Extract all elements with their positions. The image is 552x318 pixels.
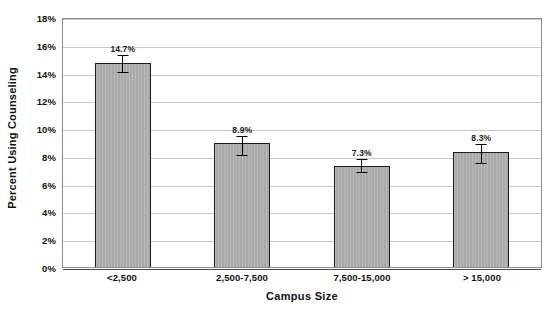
error-bar-cap-lower	[117, 72, 128, 73]
bar-texture	[96, 64, 150, 267]
bar-slot: 14.7%	[63, 19, 183, 267]
error-bar-stem	[481, 144, 482, 164]
error-bar-cap-upper	[476, 144, 487, 145]
bar[interactable]	[334, 166, 390, 267]
error-bar	[356, 159, 367, 174]
bar-texture	[335, 167, 389, 267]
y-axis-title: Percent Using Counseling	[0, 0, 24, 276]
bar-slot: 7.3%	[302, 19, 422, 267]
bar-series: 14.7%8.9%7.3%8.3%	[63, 19, 541, 267]
x-axis-tick-label: <2,500	[62, 272, 182, 290]
axis-baseline	[63, 269, 541, 270]
plot-area: 14.7%8.9%7.3%8.3%	[62, 18, 542, 268]
bar[interactable]	[214, 143, 270, 267]
error-bar-stem	[122, 55, 123, 73]
error-bar	[117, 55, 128, 73]
y-axis-tick-label: 8%	[42, 151, 56, 162]
bar-texture	[454, 153, 508, 267]
error-bar	[476, 144, 487, 164]
y-axis-tick-label: 0%	[42, 263, 56, 274]
x-axis-tick-labels: <2,5002,500-7,5007,500-15,000> 15,000	[62, 272, 542, 290]
error-bar-cap-lower	[356, 172, 367, 173]
error-bar-cap-upper	[237, 136, 248, 137]
bar-slot: 8.3%	[422, 19, 542, 267]
bar-value-label: 8.3%	[471, 133, 491, 143]
error-bar-cap-lower	[237, 155, 248, 156]
y-axis-title-text: Percent Using Counseling	[6, 67, 18, 209]
bar[interactable]	[95, 63, 151, 267]
y-axis-tick-label: 18%	[37, 13, 56, 24]
y-axis-tick-label: 12%	[37, 96, 56, 107]
error-bar-stem	[242, 136, 243, 156]
y-axis-tick-label: 4%	[42, 207, 56, 218]
bar-value-label: 8.9%	[232, 125, 252, 135]
bar-chart-figure: Percent Using Counseling 18%16%14%12%10%…	[0, 0, 552, 318]
y-axis-tick-labels: 18%16%14%12%10%8%6%4%2%0%	[22, 0, 60, 276]
y-axis-tick-label: 16%	[37, 40, 56, 51]
x-axis-tick-label: 2,500-7,500	[182, 272, 302, 290]
bar-value-label: 7.3%	[352, 148, 372, 158]
x-axis-tick-label: 7,500-15,000	[302, 272, 422, 290]
y-axis-tick-label: 2%	[42, 235, 56, 246]
bar-value-label: 14.7%	[110, 44, 135, 54]
bar[interactable]	[453, 152, 509, 267]
y-axis-tick-label: 6%	[42, 179, 56, 190]
error-bar-cap-lower	[476, 163, 487, 164]
bar-slot: 8.9%	[183, 19, 303, 267]
bar-texture	[215, 144, 269, 267]
y-axis-tick-label: 10%	[37, 124, 56, 135]
y-axis-tick-label: 14%	[37, 68, 56, 79]
error-bar-stem	[361, 159, 362, 174]
error-bar	[237, 136, 248, 156]
error-bar-cap-upper	[117, 55, 128, 56]
x-axis-tick-label: > 15,000	[422, 272, 542, 290]
x-axis-title: Campus Size	[62, 290, 542, 302]
error-bar-cap-upper	[356, 159, 367, 160]
